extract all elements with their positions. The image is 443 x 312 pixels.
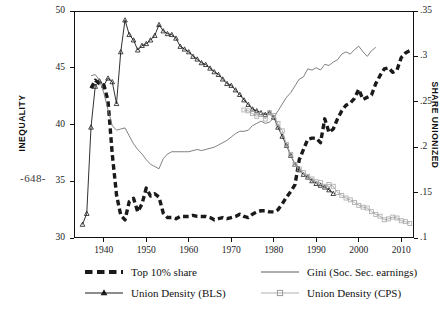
series-union-density-bls [80,18,335,227]
plot-area [74,11,414,238]
y-axis-right-tick-mark [414,192,418,193]
y-axis-right-tick-label: .2 [420,141,443,151]
y-axis-left-tick-label: 35 [43,175,65,185]
y-axis-left-tick-mark [70,124,74,125]
y-axis-right-tick-mark [414,238,418,239]
y-axis-left-title: INEQUALITY [17,73,27,173]
y-axis-right-tick-label: .35 [420,5,443,15]
x-axis-tick-mark [103,238,104,242]
chart-legend: Top 10% share Union Density (BLS) Gini (… [84,264,424,308]
legend-item-top10: Top 10% share [84,264,197,280]
legend-label-bls: Union Density (BLS) [131,287,226,299]
x-axis-tick-mark [231,238,232,242]
x-axis-tick-mark [316,238,317,242]
x-axis-tick-label: 2010 [384,245,418,255]
legend-label-gini: Gini (Soc. Sec. earnings) [307,266,417,278]
y-axis-right-tick-label: .1 [420,232,443,242]
legend-swatch-cps-square [260,286,300,300]
y-axis-left-tick-mark [70,238,74,239]
legend-label-cps: Union Density (CPS) [307,287,401,299]
series-union-density-cps [242,108,412,226]
x-axis-tick-mark [358,238,359,242]
x-axis-tick-mark [273,238,274,242]
series-top-10-share [91,51,410,220]
y-axis-left-tick-mark [70,11,74,12]
y-axis-right-tick-label: .25 [420,96,443,106]
x-axis-tick-label: 1990 [299,245,333,255]
x-axis-tick-label: 1940 [87,245,121,255]
y-axis-right-tick-mark [414,56,418,57]
y-axis-right-tick-mark [414,11,418,12]
x-axis-tick-label: 2000 [342,245,376,255]
legend-item-cps: Union Density (CPS) [260,285,401,301]
y-axis-left-tick-label: 45 [43,62,65,72]
y-axis-left-tick-label: 50 [43,5,65,15]
x-axis-tick-label: 1970 [214,245,248,255]
y-axis-left-tick-label: 30 [43,232,65,242]
legend-swatch-bls-triangle [84,286,124,300]
x-axis-tick-mark [188,238,189,242]
y-axis-left-tick-mark [70,181,74,182]
legend-swatch-gini-line [260,265,300,279]
legend-item-bls: Union Density (BLS) [84,285,226,301]
figure-chart: INEQUALITY SHARE UNIONIZED 3035404550 .1… [0,0,443,312]
x-axis-tick-mark [401,238,402,242]
legend-swatch-top10-dashed [84,265,124,279]
y-axis-right-tick-label: .15 [420,187,443,197]
legend-label-top10: Top 10% share [131,266,197,278]
series-gini-soc-sec-earnings [91,46,376,169]
y-axis-left-tick-label: 40 [43,119,65,129]
y-axis-left-tick-mark [70,67,74,68]
y-axis-right-tick-mark [414,101,418,102]
y-axis-right-title: SHARE UNIONIZED [430,70,440,180]
legend-item-gini: Gini (Soc. Sec. earnings) [260,264,417,280]
x-axis-tick-mark [146,238,147,242]
x-axis-tick-label: 1980 [257,245,291,255]
y-axis-right-tick-mark [414,147,418,148]
x-axis-tick-label: 1960 [172,245,206,255]
x-axis-tick-label: 1950 [129,245,163,255]
y-axis-right-tick-label: .3 [420,50,443,60]
